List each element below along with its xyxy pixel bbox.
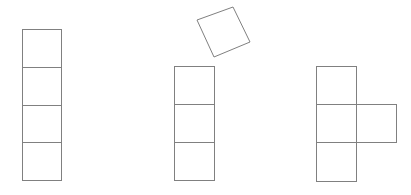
figure-canvas <box>0 0 411 195</box>
rotated-square <box>197 7 250 57</box>
square-cell <box>175 143 215 181</box>
right-t-tetromino <box>317 67 397 182</box>
square-cell <box>197 7 250 57</box>
left-tetromino-column <box>23 30 62 181</box>
square-cell <box>317 67 357 105</box>
square-cell <box>357 105 397 143</box>
square-cell <box>175 67 215 105</box>
square-cell <box>23 30 62 68</box>
middle-tromino-column <box>175 67 215 181</box>
square-cell <box>23 106 62 143</box>
polyomino-figures-svg <box>0 0 411 195</box>
square-cell <box>175 105 215 143</box>
square-cell <box>23 68 62 106</box>
square-cell <box>317 143 357 182</box>
square-cell <box>23 143 62 181</box>
square-cell <box>317 105 357 143</box>
